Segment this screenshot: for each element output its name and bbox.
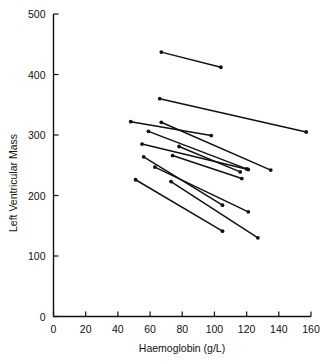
y-axis-title: Left Ventricular Mass [7,134,19,232]
data-point-marker [209,134,213,138]
x-tick-label: 100 [206,323,224,335]
x-tick-label: 40 [112,323,124,335]
data-point-marker [134,178,138,182]
x-tick-label: 140 [270,323,288,335]
data-point-marker [221,229,225,233]
data-point-marker [171,154,175,158]
data-point-marker [129,120,133,124]
series-line [155,167,248,212]
x-tick-label: 80 [176,323,188,335]
y-tick-label: 400 [28,69,46,81]
series-segment [169,180,260,240]
x-tick-label: 160 [302,323,320,335]
data-point-marker [221,203,225,207]
chart-container: 0100200300400500 020406080100120140160 H… [0,0,332,363]
series-line [131,122,211,136]
y-tick-label: 200 [28,190,46,202]
series-segment [177,145,242,174]
x-axis-tick-labels: 020406080100120140160 [51,323,320,335]
x-axis: 020406080100120140160 [51,312,320,335]
data-point-marker [246,210,250,214]
haemoglobin-vs-lvm-chart: 0100200300400500 020406080100120140160 H… [0,0,332,363]
y-axis-ticks [54,14,59,317]
x-tick-label: 60 [144,323,156,335]
data-point-marker [159,50,163,54]
series-segment [159,120,272,172]
series-segment [129,120,213,138]
series-line [160,99,306,132]
x-tick-label: 120 [238,323,256,335]
series-segment [159,50,222,69]
data-point-marker [219,65,223,69]
x-axis-title: Haemoglobin (g/L) [139,342,225,354]
data-point-marker [304,130,308,134]
y-axis: 0100200300400500 [28,8,59,323]
data-point-marker [142,155,146,159]
series-segment [158,97,308,134]
data-point-marker [147,129,151,133]
data-point-marker [246,168,250,172]
data-point-marker [238,170,242,174]
data-point-marker [169,180,173,184]
data-point-marker [140,142,144,146]
x-tick-label: 20 [80,323,92,335]
y-tick-label: 500 [28,8,46,20]
y-tick-label: 0 [40,311,46,323]
data-point-marker [269,168,273,172]
data-point-marker [153,165,157,169]
data-series-group [129,50,308,240]
series-line [161,52,221,67]
series-segment [153,165,250,214]
x-tick-label: 0 [51,323,57,335]
data-point-marker [159,120,163,124]
y-axis-tick-labels: 0100200300400500 [28,8,46,323]
y-tick-label: 100 [28,250,46,262]
data-point-marker [240,177,244,181]
x-axis-ticks [54,312,312,317]
data-point-marker [177,145,181,149]
data-point-marker [158,97,162,101]
y-tick-label: 300 [28,129,46,141]
data-point-marker [256,236,260,240]
